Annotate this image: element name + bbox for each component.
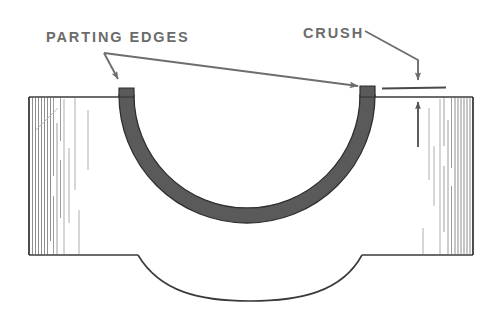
label-crush: CRUSH [303, 25, 364, 41]
label-parting-edges: PARTING EDGES [46, 29, 190, 45]
housing-body [29, 97, 473, 301]
leader-arrow-to-right-parting-edge [104, 53, 358, 86]
diagram-root: PARTING EDGES CRUSH [0, 0, 501, 314]
lower-bore-arc [138, 255, 362, 301]
crush-reference-line [382, 88, 446, 89]
leader-arrow-down-to-crush-line [365, 31, 418, 80]
leader-arrow-to-left-parting-edge [104, 53, 118, 79]
bearing-crush-diagram: PARTING EDGES CRUSH [0, 0, 501, 314]
bearing-shell-semicircle [119, 95, 375, 223]
left-parting-edge-tab [119, 88, 134, 97]
right-parting-edge-tab [360, 86, 375, 97]
